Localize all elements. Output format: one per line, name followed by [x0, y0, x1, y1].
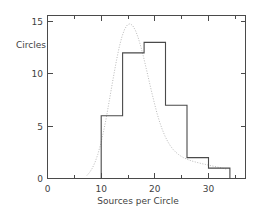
- plot-frame: [48, 16, 246, 179]
- x-axis-title: Sources per Circle: [97, 196, 179, 206]
- x-tick-label-30: 30: [203, 184, 215, 194]
- y-tick-label-10: 10: [32, 69, 44, 79]
- y-tick-label-0: 0: [37, 174, 43, 184]
- x-tick-label-0: 0: [45, 184, 51, 194]
- gaussian-fit-curve: [87, 24, 227, 176]
- x-tick-label-10: 10: [95, 184, 107, 194]
- y-axis-ticks: [48, 22, 246, 179]
- x-tick-labels: 0 10 20 30: [45, 184, 215, 194]
- y-tick-label-5: 5: [37, 122, 43, 132]
- x-tick-label-20: 20: [149, 184, 161, 194]
- histogram-figure: 0 5 10 15 0 10 20 30 Circles Sources per…: [0, 0, 260, 211]
- x-axis-ticks-top: [48, 16, 236, 22]
- y-axis-title: Circles: [16, 40, 46, 50]
- histogram-steps: [101, 42, 230, 178]
- x-axis-ticks: [48, 173, 236, 179]
- chart-canvas: 0 5 10 15 0 10 20 30 Circles Sources per…: [0, 0, 260, 211]
- y-tick-label-15: 15: [32, 17, 43, 27]
